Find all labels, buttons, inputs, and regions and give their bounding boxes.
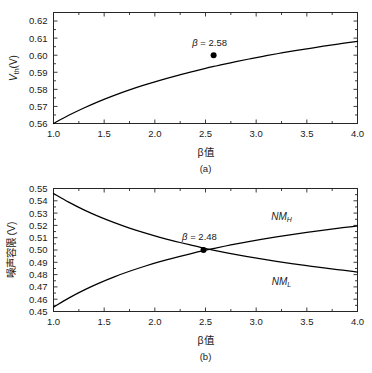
x-tick-label: 3.5: [300, 128, 313, 139]
series-nmh-main: NM: [271, 211, 287, 222]
x-tick-label: 3.0: [250, 128, 263, 139]
y-tick-label: 0.57: [29, 101, 48, 112]
chart-b-annotation-value: 2.48: [198, 231, 217, 242]
chart-b-annotation-beta: β = 2.48: [181, 231, 217, 242]
x-tick-label: 3.5: [300, 316, 313, 327]
y-tick-label: 0.54: [29, 195, 48, 206]
chart-b-series-label-nmh: NMH: [271, 211, 293, 223]
y-tick-label: 0.45: [29, 306, 48, 317]
x-tick-label: 1.0: [47, 128, 60, 139]
x-tick-label: 2.5: [199, 128, 212, 139]
chart-a-annotation-beta: β = 2.58: [191, 37, 227, 48]
chart-a-y-axis-title: Vth(V): [8, 55, 20, 81]
y-axis-title-unit: (V): [8, 55, 19, 68]
x-tick-label: 2.5: [199, 316, 212, 327]
x-tick-label: 1.0: [47, 316, 60, 327]
x-tick-label: 1.5: [98, 128, 111, 139]
y-tick-label: 0.52: [29, 220, 48, 231]
chart-a-marker-point: [211, 52, 217, 58]
y-tick-label: 0.61: [29, 33, 48, 44]
y-tick-label: 0.49: [29, 257, 48, 268]
series-nml-main: NM: [272, 276, 288, 287]
chart-a-xticklabels: 1.0 1.5 2.0 2.5 3.0 3.5 4.0: [47, 128, 364, 139]
chart-a-subcaption: (a): [200, 163, 212, 174]
x-tick-label: 3.0: [250, 316, 263, 327]
figure-container: 0.56 0.57 0.58 0.59 0.60 0.61 0.62 1.0 1…: [0, 0, 372, 373]
y-tick-label: 0.60: [29, 50, 48, 61]
chart-a-curve-vth: [54, 41, 358, 123]
x-tick-label: 1.5: [98, 316, 111, 327]
y-tick-label: 0.50: [29, 244, 48, 255]
y-tick-label: 0.51: [29, 232, 48, 243]
chart-b-subcaption: (b): [200, 351, 212, 362]
y-tick-label: 0.53: [29, 208, 48, 219]
x-tick-label: 4.0: [351, 128, 364, 139]
chart-b-series-label-nml: NML: [272, 276, 292, 288]
chart-b-y-axis-title: 噪声容限 (V): [5, 222, 17, 279]
y-tick-label: 0.56: [29, 118, 48, 129]
chart-a-x-axis-title: β值: [197, 146, 214, 158]
y-tick-label: 0.55: [29, 183, 48, 194]
series-nmh-sub: H: [287, 216, 293, 223]
chart-a-yticklabels: 0.56 0.57 0.58 0.59 0.60 0.61 0.62: [29, 15, 48, 128]
y-tick-label: 0.46: [29, 294, 48, 305]
x-tick-label: 4.0: [351, 316, 364, 327]
chart-a-svg: 0.56 0.57 0.58 0.59 0.60 0.61 0.62 1.0 1…: [0, 0, 372, 186]
chart-b-marker-point: [200, 247, 206, 253]
y-tick-label: 0.58: [29, 84, 48, 95]
y-tick-label: 0.47: [29, 281, 48, 292]
x-tick-label: 2.0: [148, 316, 161, 327]
y-tick-label: 0.62: [29, 15, 48, 26]
x-tick-label: 2.0: [148, 128, 161, 139]
y-tick-label: 0.59: [29, 67, 48, 78]
chart-a-annotation-value: 2.58: [208, 37, 227, 48]
chart-panel-a: 0.56 0.57 0.58 0.59 0.60 0.61 0.62 1.0 1…: [0, 0, 372, 186]
chart-b-xticklabels: 1.0 1.5 2.0 2.5 3.0 3.5 4.0: [47, 316, 364, 327]
chart-b-svg: 0.450.460.470.480.490.500.510.520.530.54…: [0, 178, 372, 373]
chart-panel-b: 0.450.460.470.480.490.500.510.520.530.54…: [0, 178, 372, 373]
chart-b-x-axis-title: β值: [197, 334, 214, 346]
y-tick-label: 0.48: [29, 269, 48, 280]
chart-b-yticklabels: 0.450.460.470.480.490.500.510.520.530.54…: [29, 183, 48, 317]
series-nml-sub: L: [287, 281, 291, 288]
